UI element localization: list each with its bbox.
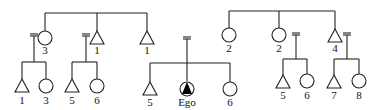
kin-label: 5 <box>280 89 286 101</box>
marriage-marker-icon <box>183 37 191 39</box>
kin-label: 1 <box>94 44 100 56</box>
kin-label: 2 <box>276 42 282 54</box>
female-circle-icon <box>352 74 366 88</box>
kin-label: 7 <box>331 89 337 101</box>
marriage-marker-icon <box>82 34 90 36</box>
marriage-marker-icon <box>292 33 300 35</box>
ego-sibling-set: 5 Ego 6 <box>143 37 237 108</box>
female-circle-icon <box>222 28 236 42</box>
kin-label: 6 <box>227 96 233 108</box>
kin-label: 6 <box>94 94 100 106</box>
male-triangle-icon <box>276 75 290 88</box>
female-circle-icon <box>90 79 104 93</box>
male-triangle-icon <box>90 31 104 44</box>
male-triangle-icon <box>15 79 29 92</box>
kin-label: 1 <box>144 44 150 56</box>
kin-label: 2 <box>226 42 232 54</box>
female-circle-icon <box>39 79 53 93</box>
female-circle-icon <box>300 74 314 88</box>
ego-label: Ego <box>178 96 196 108</box>
male-triangle-icon <box>65 79 79 92</box>
kin-label: 6 <box>304 89 310 101</box>
right-sibling-set: 2 2 5 6 4 7 8 <box>222 11 366 101</box>
kinship-diagram: 3 1 3 1 5 6 1 <box>0 0 377 110</box>
marriage-marker-icon <box>343 33 351 35</box>
female-circle-icon <box>38 31 52 45</box>
female-circle-icon <box>223 82 237 96</box>
kin-label: 5 <box>69 94 75 106</box>
kin-label: 3 <box>43 94 49 106</box>
male-triangle-icon <box>328 29 342 42</box>
marriage-marker-icon <box>30 34 38 36</box>
male-triangle-icon <box>327 75 341 88</box>
kin-label: 5 <box>147 96 153 108</box>
ego-icon <box>180 82 194 96</box>
male-triangle-icon <box>140 31 154 44</box>
female-circle-icon <box>272 28 286 42</box>
kin-label: 3 <box>42 44 48 56</box>
left-sibling-set: 3 1 3 1 5 6 1 <box>15 13 154 106</box>
kin-label: 1 <box>19 94 25 106</box>
male-triangle-icon <box>143 82 157 95</box>
kin-label: 4 <box>332 42 338 54</box>
kin-label: 8 <box>356 89 362 101</box>
